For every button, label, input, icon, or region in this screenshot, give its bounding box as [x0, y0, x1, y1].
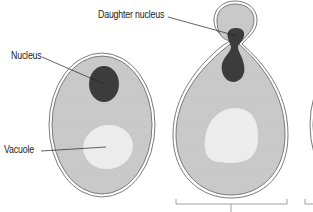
budding-cell — [173, 1, 288, 198]
yeast-budding-diagram — [0, 0, 313, 212]
bracket-partial-cell — [305, 199, 313, 204]
label-daughter-nucleus: Daughter nucleus — [98, 9, 164, 20]
bracket-budding-cell — [176, 199, 287, 212]
label-nucleus: Nucleus — [11, 50, 42, 61]
mature-cell — [49, 53, 155, 197]
partial-cell-right — [310, 53, 313, 197]
label-vacuole: Vacuole — [4, 144, 34, 155]
